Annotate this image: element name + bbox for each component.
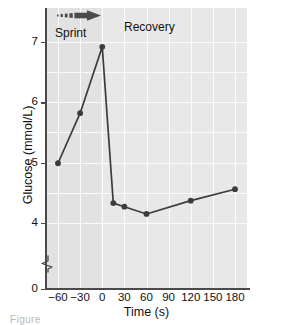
data-point <box>99 44 105 50</box>
data-point <box>55 160 61 166</box>
data-point <box>232 186 238 192</box>
glucose-line <box>58 47 235 214</box>
glucose-markers <box>55 44 238 217</box>
data-point <box>77 110 83 116</box>
data-point <box>188 198 194 204</box>
data-point <box>110 200 116 206</box>
data-point <box>121 204 127 210</box>
figure-caption: Figure <box>10 314 41 325</box>
data-point <box>144 211 150 217</box>
